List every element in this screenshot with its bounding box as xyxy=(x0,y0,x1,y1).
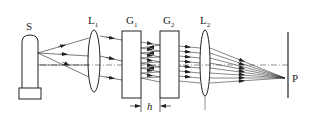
plate2-label: G2 xyxy=(163,14,175,29)
lens-2: L2 xyxy=(200,14,211,110)
light-source: S xyxy=(19,20,41,99)
glass-plate-2: G2 xyxy=(160,14,179,98)
lens1-label: L1 xyxy=(88,14,99,29)
gap-label: h xyxy=(147,100,153,112)
rays-between-plates xyxy=(141,42,160,82)
source-label: S xyxy=(26,20,32,32)
plate1-label: G1 xyxy=(126,14,138,29)
rays-lens1-to-plate1 xyxy=(100,36,122,80)
glass-plate-1: G1 xyxy=(122,14,141,98)
optical-diagram: S L1 G1 xyxy=(0,0,311,123)
rays-lens2-to-point xyxy=(210,48,285,83)
rays-plate2-to-lens2 xyxy=(179,46,200,83)
observation-screen: P xyxy=(288,32,298,98)
lens-1: L1 xyxy=(88,14,100,92)
lens2-label: L2 xyxy=(200,14,211,29)
point-label: P xyxy=(292,72,298,84)
rays-source-to-lens1 xyxy=(38,38,89,77)
